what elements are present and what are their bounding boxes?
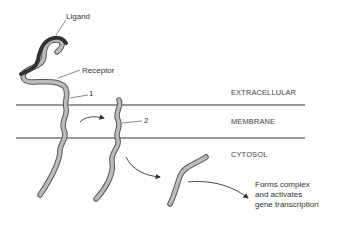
extracellular-label: EXTRACELLULAR (231, 88, 296, 98)
state2-label: 2 (144, 116, 148, 126)
signaling-diagram: Ligand Receptor 1 2 EXTRACELLULAR MEMBRA… (0, 0, 341, 227)
membrane-label: MEMBRANE (231, 117, 275, 127)
ligand-label: Ligand (66, 12, 90, 22)
receptor-label: Receptor (82, 66, 114, 76)
state1-label: 1 (89, 89, 93, 99)
outcome-line-2: and activates (255, 190, 302, 200)
outcome-line-3: gene transcription (255, 200, 319, 210)
state2-leader (122, 121, 142, 123)
ligand-leader (56, 20, 66, 35)
state1-leader (70, 95, 88, 98)
cytosol-label: CYTOSOL (231, 150, 267, 160)
arrow-to-outcome (188, 182, 248, 198)
arrow-2-to-fragment (126, 157, 160, 177)
receptor-2 (96, 100, 120, 199)
receptor-leader (58, 70, 80, 78)
outcome-line-1: Forms complex (255, 180, 310, 190)
released-fragment (170, 157, 206, 204)
receptor-1 (23, 40, 67, 195)
arrow-1-to-2 (80, 117, 104, 122)
